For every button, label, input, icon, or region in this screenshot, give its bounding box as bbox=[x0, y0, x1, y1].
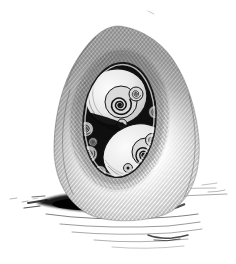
ground-squiggle bbox=[148, 235, 188, 238]
coil-apex-knob bbox=[129, 87, 143, 101]
egg-ink-illustration: Black-and-white pen-and-ink drawing of a… bbox=[0, 0, 236, 264]
coil-center-dot bbox=[118, 103, 122, 107]
ground-speck bbox=[22, 201, 28, 202]
ground-squiggle bbox=[154, 239, 180, 241]
ground-stroke bbox=[208, 190, 225, 192]
ground-stroke bbox=[202, 183, 217, 185]
ground-speck bbox=[10, 198, 17, 199]
stray-speck bbox=[148, 11, 154, 14]
illustration-canvas: Black-and-white pen-and-ink drawing of a… bbox=[0, 0, 236, 264]
ground-speck bbox=[33, 198, 38, 199]
ground-stroke bbox=[72, 229, 202, 234]
ground-stroke bbox=[60, 222, 200, 227]
ground-stroke bbox=[112, 246, 184, 248]
